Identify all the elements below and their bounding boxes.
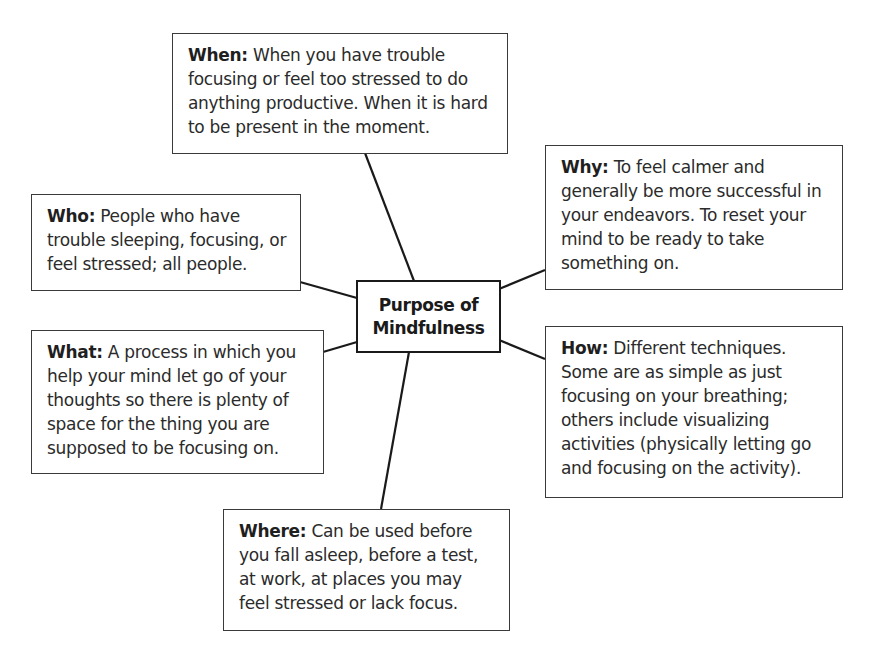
connector-why <box>499 270 545 289</box>
mind-map-canvas: When: When you have trouble focusing or … <box>0 0 874 650</box>
node-where-label: Where: <box>239 521 306 541</box>
connector-where <box>381 352 409 509</box>
node-why: Why: To feel calmer and generally be mor… <box>545 145 843 290</box>
node-how-label: How: <box>561 338 608 358</box>
node-what: What: A process in which you help your m… <box>31 330 324 474</box>
center-title-line2: Mindfulness <box>373 317 485 340</box>
node-who-label: Who: <box>47 206 95 226</box>
node-when: When: When you have trouble focusing or … <box>172 33 508 154</box>
connector-when <box>365 153 414 281</box>
center-node: Purpose of Mindfulness <box>356 280 501 353</box>
node-how-text: Different techniques. Some are as simple… <box>561 338 811 478</box>
node-where: Where: Can be used before you fall aslee… <box>223 509 510 631</box>
node-what-label: What: <box>47 342 103 362</box>
node-why-label: Why: <box>561 157 609 177</box>
connector-who <box>300 282 357 298</box>
center-title-line1: Purpose of <box>373 294 485 317</box>
node-when-label: When: <box>188 45 248 65</box>
connector-how <box>499 340 545 359</box>
node-who: Who: People who have trouble sleeping, f… <box>31 194 301 291</box>
node-how: How: Different techniques. Some are as s… <box>545 326 843 498</box>
connector-what <box>323 342 357 352</box>
